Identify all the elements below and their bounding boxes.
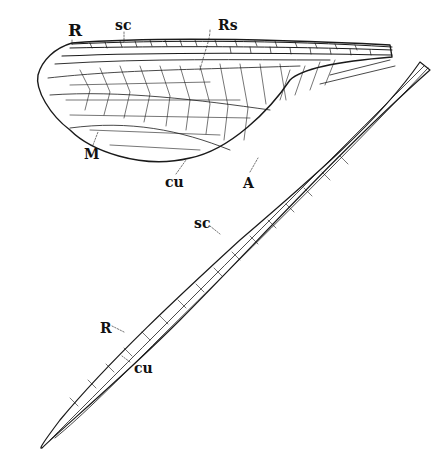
label-broad-A: A (243, 176, 254, 190)
wing-venation-figure (0, 0, 437, 471)
broad-wing (38, 30, 395, 162)
label-narrow-R: R (100, 321, 112, 335)
narrow-wing (41, 62, 430, 448)
label-broad-cu: cu (165, 175, 184, 189)
label-broad-Rs: Rs (218, 18, 238, 32)
label-broad-M: M (84, 147, 100, 161)
label-broad-sc: sc (115, 18, 131, 32)
label-narrow-cu: cu (134, 361, 153, 375)
label-broad-R: R (68, 22, 82, 39)
label-narrow-sc: sc (194, 216, 210, 230)
